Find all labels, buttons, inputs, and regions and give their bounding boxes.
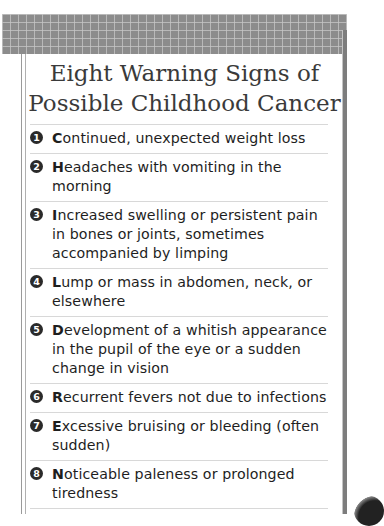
number-badge-icon: 5 — [30, 323, 43, 336]
title-line-2: Possible Childhood Cancer — [26, 88, 343, 118]
number-badge-icon: 6 — [30, 390, 43, 403]
corner-decoration — [354, 496, 384, 526]
list-item: 2 Headaches with vomiting in the morning — [30, 153, 328, 201]
left-border-line-outer — [21, 54, 22, 514]
page-title: Eight Warning Signs of Possible Childhoo… — [26, 58, 343, 118]
item-initial: H — [52, 159, 64, 175]
item-initial: N — [52, 466, 64, 482]
item-initial: L — [52, 274, 61, 290]
item-text: xcessive bruising or bleeding (often sud… — [52, 418, 319, 453]
left-border-line-inner — [25, 54, 26, 514]
list-item: 4 Lump or mass in abdomen, neck, or else… — [30, 268, 328, 316]
number-badge-icon: 3 — [30, 208, 43, 221]
item-text: ump or mass in abdomen, neck, or elsewhe… — [52, 274, 312, 309]
number-badge-icon: 1 — [30, 131, 43, 144]
item-initial: E — [52, 418, 62, 434]
title-line-1: Eight Warning Signs of — [26, 58, 343, 88]
list-item: 8 Noticeable paleness or prolonged tired… — [30, 460, 328, 508]
item-initial: R — [52, 389, 63, 405]
warning-signs-list: 1 Continued, unexpected weight loss 2 He… — [30, 124, 328, 509]
item-text: ecurrent fevers not due to infections — [63, 389, 326, 405]
number-badge-icon: 2 — [30, 160, 43, 173]
number-badge-icon: 4 — [30, 275, 43, 288]
item-text: ontinued, unexpected weight loss — [63, 130, 306, 146]
header-grid-band — [2, 14, 347, 54]
list-item: 1 Continued, unexpected weight loss — [30, 124, 328, 153]
number-badge-icon: 8 — [30, 467, 43, 480]
number-badge-icon: 7 — [30, 419, 43, 432]
list-item: 6 Recurrent fevers not due to infections — [30, 383, 328, 412]
divider — [30, 508, 328, 509]
item-text: eadaches with vomiting in the morning — [52, 159, 282, 194]
list-item: 3 Increased swelling or persistent pain … — [30, 201, 328, 268]
list-item: 7 Excessive bruising or bleeding (often … — [30, 412, 328, 460]
item-initial: C — [52, 130, 63, 146]
item-text: ncreased swelling or persistent pain in … — [52, 207, 318, 261]
list-item: 5 Development of a whitish appearance in… — [30, 316, 328, 383]
item-text: oticeable paleness or prolonged tirednes… — [52, 466, 295, 501]
item-text: evelopment of a whitish appearance in th… — [52, 322, 327, 376]
right-border-bar — [343, 30, 347, 514]
item-initial: D — [52, 322, 64, 338]
